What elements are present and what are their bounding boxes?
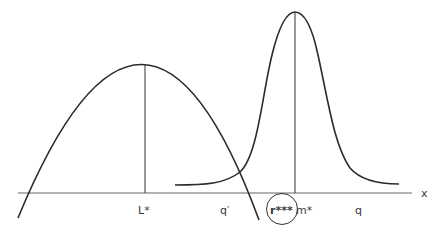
q-label: q: [355, 205, 362, 216]
diagram-canvas: [0, 0, 430, 234]
q-prime-label: q′: [220, 205, 229, 216]
m-star-label: m*: [296, 205, 312, 216]
l-star-label: L*: [138, 205, 150, 216]
bell-curve: [175, 12, 399, 185]
r-triple-star-label: r***: [270, 205, 293, 216]
x-axis-label: x: [421, 188, 428, 199]
parabola-curve: [18, 64, 259, 220]
